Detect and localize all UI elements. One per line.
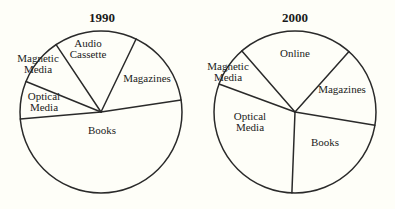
slice-label-line: Magazines xyxy=(318,83,366,95)
pies-group: AudioCassetteMagazinesBooksOpticalMediaM… xyxy=(17,31,376,193)
pie-chart-2000: OnlineMagazinesBooksOpticalMediaMagnetic… xyxy=(207,31,376,193)
slice-label: Books xyxy=(88,124,116,136)
pie-charts-figure: 1990 2000 AudioCassetteMagazinesBooksOpt… xyxy=(0,0,395,209)
slice-label-line: Books xyxy=(88,124,116,136)
slice-label-line: Media xyxy=(214,71,242,83)
pie-chart-1990: AudioCassetteMagazinesBooksOpticalMediaM… xyxy=(17,31,182,193)
slice-label-line: Media xyxy=(236,121,264,133)
slice-divider xyxy=(20,112,101,119)
slice-divider xyxy=(101,100,181,112)
slice-label: Books xyxy=(311,136,339,148)
slice-label-line: Media xyxy=(24,63,52,75)
pie-charts-svg: 1990 2000 AudioCassetteMagazinesBooksOpt… xyxy=(0,0,395,209)
slice-label: MagneticMedia xyxy=(17,52,59,75)
slice-label: Magazines xyxy=(123,72,171,84)
slice-label-line: Magazines xyxy=(123,72,171,84)
chart-title-1990: 1990 xyxy=(89,10,115,25)
slice-divider xyxy=(295,52,349,112)
slice-label-line: Online xyxy=(280,47,310,59)
slice-divider xyxy=(295,112,375,125)
slice-label: MagneticMedia xyxy=(207,60,249,83)
slice-label: Magazines xyxy=(318,83,366,95)
slice-label-line: Cassette xyxy=(70,48,107,60)
slice-label: AudioCassette xyxy=(70,37,107,60)
slice-label: OpticalMedia xyxy=(234,110,266,133)
slice-label: Online xyxy=(280,47,310,59)
slice-divider xyxy=(292,112,295,193)
chart-title-2000: 2000 xyxy=(282,10,308,25)
slice-label-line: Media xyxy=(30,101,58,113)
slice-label-line: Books xyxy=(311,136,339,148)
